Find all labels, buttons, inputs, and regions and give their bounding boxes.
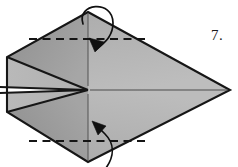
- step-number-label: 7.: [211, 28, 223, 43]
- paper-facets: [7, 12, 230, 162]
- origami-diagram: 7.: [0, 0, 238, 167]
- origami-figure: [0, 0, 238, 167]
